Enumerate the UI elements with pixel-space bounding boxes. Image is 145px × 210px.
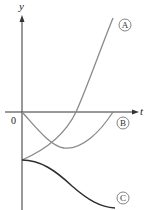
curve-c-label: C: [117, 192, 129, 204]
motion-graph: y t 0 A B C: [0, 0, 145, 210]
t-axis-label: t: [140, 105, 144, 117]
svg-text:A: A: [122, 20, 129, 30]
curve-a-label: A: [119, 19, 131, 31]
graph-canvas: y t 0 A B C: [0, 0, 145, 210]
curve-a: [22, 18, 113, 160]
curve-b: [22, 112, 113, 148]
svg-text:B: B: [120, 118, 126, 128]
t-axis-arrow-icon: [132, 110, 139, 115]
origin-label: 0: [11, 115, 16, 126]
curve-c: [22, 160, 115, 208]
curve-b-label: B: [117, 117, 129, 129]
y-axis-arrow-icon: [20, 15, 25, 22]
y-axis-label: y: [18, 0, 24, 12]
y-axis: y: [18, 0, 25, 210]
svg-text:C: C: [120, 193, 126, 203]
